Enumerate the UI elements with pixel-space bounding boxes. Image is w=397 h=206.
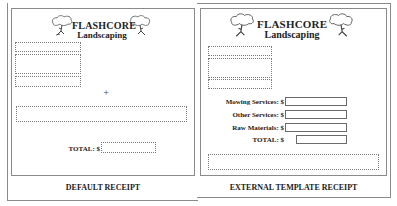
tree-icon: [327, 12, 355, 42]
raw-materials-field[interactable]: [285, 123, 347, 132]
brand-subtitle: Landscaping: [72, 30, 132, 40]
contact-line-box: [15, 76, 81, 87]
other-services-label: Other Services: $: [200, 111, 284, 119]
default-receipt-caption: DEFAULT RECEIPT: [11, 183, 195, 192]
address-line-box: [15, 42, 81, 52]
tree-icon: [228, 12, 256, 42]
brand-subtitle: Landscaping: [257, 29, 327, 40]
total-field[interactable]: [296, 135, 347, 144]
mowing-services-label: Mowing Services: $: [200, 98, 284, 106]
raw-materials-label: Raw Materials: $: [200, 124, 284, 132]
total-field[interactable]: [101, 142, 156, 153]
tree-icon: [50, 14, 74, 40]
total-label: TOTAL: $: [50, 145, 100, 153]
other-services-field[interactable]: [285, 110, 347, 119]
address-block-box: [208, 58, 272, 78]
address-block-box: [15, 54, 81, 74]
total-label: TOTAL: $: [200, 136, 284, 144]
contact-line-box: [208, 79, 272, 89]
external-receipt-caption: EXTERNAL TEMPLATE RECEIPT: [200, 183, 387, 192]
address-line-box: [208, 46, 272, 56]
line-items-box: [16, 106, 187, 122]
footer-notes-box: [208, 154, 379, 170]
plus-symbol: +: [100, 87, 112, 98]
mowing-services-field[interactable]: [285, 97, 347, 106]
